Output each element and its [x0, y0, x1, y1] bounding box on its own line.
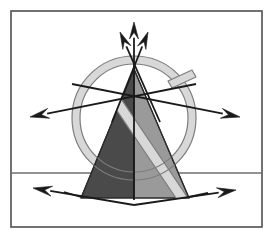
figure-container: [0, 0, 273, 236]
geometry-diagram: [0, 0, 273, 236]
